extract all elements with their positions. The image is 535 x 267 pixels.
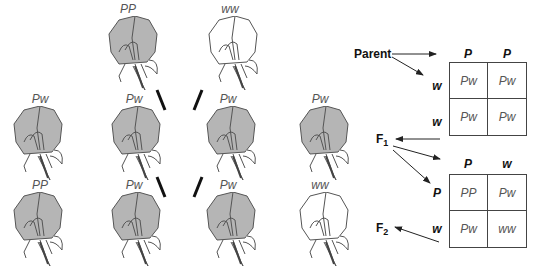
punnett-cell: Pw: [488, 99, 526, 135]
punnett-col-header: P: [464, 47, 472, 61]
f2-label: F2: [376, 221, 388, 237]
punnett-square-f1: PP Pw Pw ww: [449, 174, 527, 248]
punnett-col-header: P: [503, 47, 511, 61]
punnett-cell: Pw: [488, 63, 526, 99]
punnett-row-header: w: [432, 222, 441, 236]
punnett-cell: PP: [450, 175, 488, 211]
punnett-row-header: P: [433, 186, 441, 200]
punnett-cell: Pw: [450, 99, 488, 135]
parent-label: Parent: [354, 47, 391, 61]
punnett-cell: Pw: [450, 211, 488, 247]
punnett-col-header: w: [502, 157, 511, 171]
punnett-col-header: P: [464, 157, 472, 171]
punnett-cell: ww: [488, 211, 526, 247]
f1-label: F1: [376, 132, 388, 148]
punnett-cell: Pw: [450, 63, 488, 99]
punnett-square-parent: Pw Pw Pw Pw: [449, 62, 527, 136]
punnett-row-header: w: [432, 79, 441, 93]
punnett-row-header: w: [432, 115, 441, 129]
punnett-cell: Pw: [488, 175, 526, 211]
